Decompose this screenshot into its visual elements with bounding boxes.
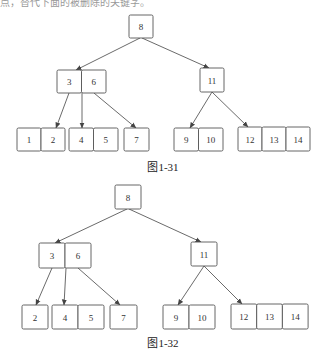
tree-node-l121314: 121314 bbox=[231, 304, 308, 329]
tree-node-l121314: 121314 bbox=[238, 127, 310, 151]
tree-node-root: 8 bbox=[129, 15, 153, 38]
key-label: 1 bbox=[27, 135, 32, 145]
tree-node-n36: 36 bbox=[57, 70, 106, 93]
key-label: 9 bbox=[174, 313, 179, 323]
key-label: 10 bbox=[206, 135, 216, 145]
key-label: 11 bbox=[208, 76, 217, 86]
key-label: 4 bbox=[63, 313, 68, 323]
b-tree-diagrams: 8361112457910121314图1-318361124579101213… bbox=[0, 0, 329, 364]
tree-edge-arrow bbox=[129, 209, 201, 242]
tree-edge-arrow bbox=[190, 92, 212, 128]
key-label: 5 bbox=[104, 135, 109, 145]
tree-edge-arrow bbox=[178, 266, 204, 305]
tree-node-n36: 36 bbox=[39, 243, 91, 268]
figure-2: 836112457910121314图1-32 bbox=[22, 185, 308, 349]
key-label: 11 bbox=[200, 250, 209, 260]
tree-node-l45: 45 bbox=[52, 305, 104, 329]
figure-1: 8361112457910121314图1-31 bbox=[17, 15, 310, 173]
tree-node-l7: 7 bbox=[124, 128, 149, 151]
tree-node-l7: 7 bbox=[110, 305, 137, 329]
tree-edge-arrow bbox=[142, 38, 209, 68]
tree-edge-arrow bbox=[94, 93, 136, 128]
key-label: 2 bbox=[33, 313, 38, 323]
key-label: 12 bbox=[239, 312, 248, 322]
tree-edge-arrow bbox=[64, 268, 66, 305]
key-label: 7 bbox=[134, 135, 139, 145]
tree-node-l12: 12 bbox=[17, 128, 65, 151]
tree-node-root: 8 bbox=[115, 185, 141, 209]
key-label: 3 bbox=[67, 77, 72, 87]
tree-edge-arrow bbox=[76, 38, 140, 70]
key-label: 5 bbox=[89, 313, 94, 323]
tree-node-l45: 45 bbox=[69, 128, 118, 151]
key-label: 4 bbox=[79, 135, 84, 145]
tree-node-l910: 910 bbox=[163, 305, 215, 329]
key-label: 3 bbox=[50, 251, 55, 261]
key-label: 8 bbox=[126, 193, 131, 203]
key-label: 13 bbox=[265, 312, 275, 322]
tree-node-l910: 910 bbox=[174, 128, 223, 151]
tree-edge-arrow bbox=[204, 266, 242, 304]
tree-node-n11: 11 bbox=[191, 242, 217, 266]
tree-node-l2: 2 bbox=[22, 305, 48, 329]
tree-node-n11: 11 bbox=[200, 68, 224, 92]
key-label: 7 bbox=[121, 313, 126, 323]
key-label: 10 bbox=[198, 313, 208, 323]
key-label: 14 bbox=[294, 135, 304, 145]
tree-edge-arrow bbox=[78, 268, 120, 305]
tree-edge-arrow bbox=[56, 93, 69, 128]
key-label: 8 bbox=[139, 22, 144, 32]
tree-edge-arrow bbox=[55, 209, 127, 243]
key-label: 6 bbox=[76, 251, 81, 261]
key-label: 9 bbox=[184, 135, 189, 145]
figure-caption: 图1-32 bbox=[147, 337, 178, 349]
key-label: 14 bbox=[291, 312, 301, 322]
key-label: 12 bbox=[246, 135, 255, 145]
key-label: 6 bbox=[92, 77, 97, 87]
figure-caption: 图1-31 bbox=[147, 161, 178, 173]
key-label: 2 bbox=[51, 135, 56, 145]
tree-edge-arrow bbox=[36, 268, 52, 305]
tree-edge-arrow bbox=[212, 92, 248, 127]
key-label: 13 bbox=[270, 135, 280, 145]
